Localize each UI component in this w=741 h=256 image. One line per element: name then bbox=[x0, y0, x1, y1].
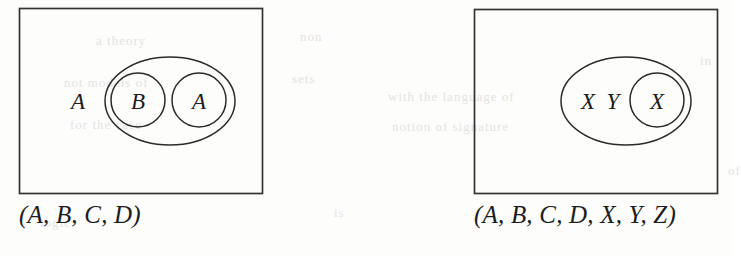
label-x-in-circle: X bbox=[649, 89, 665, 114]
venn-diagram-left-canvas: A B A bbox=[0, 0, 300, 200]
universe-rectangle-right bbox=[475, 10, 718, 194]
outer-ellipse-left bbox=[105, 57, 235, 145]
caption-left: (A, B, C, D) bbox=[19, 201, 141, 229]
label-x-outside: X bbox=[580, 89, 596, 114]
venn-diagram-left: A B A (A, B, C, D) bbox=[0, 0, 300, 200]
label-a-in-circle: A bbox=[190, 89, 207, 114]
venn-diagram-right: X Y X (A, B, C, D, X, Y, Z) bbox=[450, 0, 732, 200]
venn-diagram-right-canvas: X Y X bbox=[450, 0, 732, 200]
ghost-text: non bbox=[300, 29, 323, 45]
label-a-outside: A bbox=[69, 89, 86, 114]
caption-right: (A, B, C, D, X, Y, Z) bbox=[474, 201, 676, 229]
label-b-in-circle: B bbox=[131, 89, 145, 114]
label-y-outside: Y bbox=[607, 89, 622, 114]
ghost-text: is bbox=[334, 205, 345, 221]
